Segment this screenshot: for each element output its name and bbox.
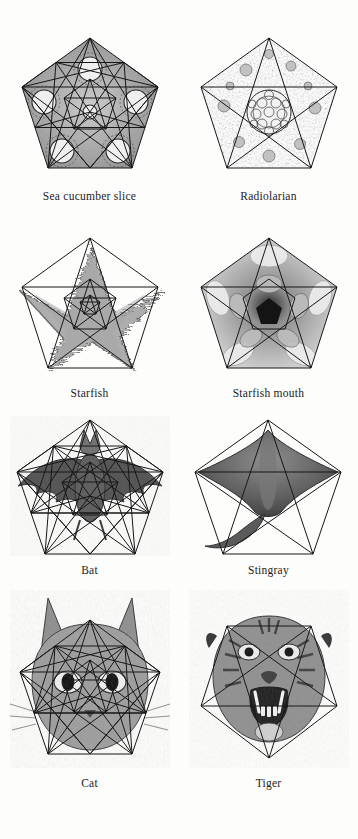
figure-bat [10,416,170,556]
specimen-texture [10,416,170,556]
specimen-texture [10,590,170,768]
specimen-texture [18,246,162,368]
figure-caption-cat: Cat [81,778,98,790]
figure-cell-bat: Bat [0,406,179,584]
figure-cell-radiolarian: Radiolarian [179,0,358,218]
figure-caption-sea-cucumber-slice: Sea cucumber slice [43,191,136,203]
starfish-drawing [15,232,165,378]
figure-cell-starfish-mouth: Starfish mouth [179,218,358,406]
specimen-texture [194,32,344,180]
cat-drawing [10,590,170,768]
tiger-drawing [189,590,349,768]
figure-cell-sea-cucumber-slice: Sea cucumber slice [0,0,179,218]
sea-cucumber-slice-drawing [15,32,165,180]
figure-caption-starfish-mouth: Starfish mouth [233,388,305,400]
figure-stingray [191,416,346,556]
figure-cell-stingray: Stingray [179,406,358,584]
figure-sea-cucumber-slice [15,32,165,180]
figure-cell-tiger: Tiger [179,584,358,839]
figure-caption-tiger: Tiger [256,778,282,790]
figure-cell-cat: Cat [0,584,179,839]
specimen-texture [189,590,349,768]
figure-radiolarian [194,32,344,180]
starfish-mouth-drawing [194,232,344,378]
figure-caption-radiolarian: Radiolarian [240,191,296,203]
figure-cat [10,590,170,768]
bat-drawing [10,416,170,556]
radiolarian-drawing [194,32,344,180]
figure-caption-bat: Bat [81,565,98,577]
figure-starfish-mouth [194,232,344,378]
figure-tiger [189,590,349,768]
figure-cell-starfish: Starfish [0,218,179,406]
figure-caption-stingray: Stingray [248,565,289,577]
figure-grid: Sea cucumber slice [0,0,358,839]
figure-starfish [15,232,165,378]
figure-caption-starfish: Starfish [71,388,109,400]
stingray-drawing [191,416,346,556]
pentagonal-symmetry-plate: Sea cucumber slice [0,0,358,839]
